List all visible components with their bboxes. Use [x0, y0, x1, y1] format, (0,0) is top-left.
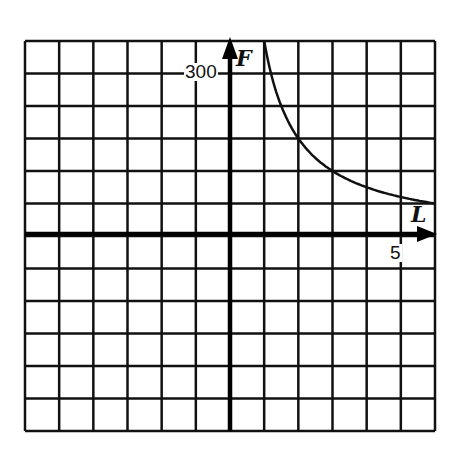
x-axis-label: L — [411, 201, 426, 227]
y-tick-label-300: 300 — [184, 63, 218, 81]
data-curve — [264, 41, 435, 204]
x-tick-label-5: 5 — [389, 244, 402, 262]
plot-area — [0, 0, 455, 458]
axes — [25, 37, 437, 431]
y-axis-label: F — [236, 45, 252, 71]
